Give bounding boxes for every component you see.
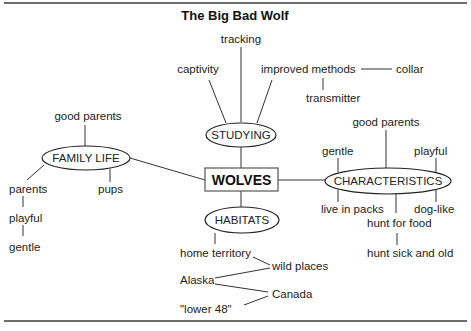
- label-improved-methods: improved methods: [261, 63, 356, 75]
- svg-text:STUDYING: STUDYING: [211, 129, 270, 141]
- label-home-territory: home territory: [180, 247, 251, 259]
- label-wild-places: wild places: [271, 260, 328, 272]
- svg-text:HABITATS: HABITATS: [215, 214, 270, 226]
- node-wolves: WOLVES: [205, 168, 278, 191]
- diagram-title: The Big Bad Wolf: [181, 8, 289, 23]
- label-char-good-parents: good parents: [352, 116, 419, 128]
- label-canada: Canada: [272, 288, 313, 300]
- label-char-playful: playful: [414, 145, 447, 157]
- label-transmitter: transmitter: [306, 92, 360, 104]
- label-parents: parents: [9, 183, 48, 195]
- label-hunt-for-food: hunt for food: [367, 217, 432, 229]
- node-studying: STUDYING: [206, 123, 276, 147]
- label-lower-48: "lower 48": [180, 303, 232, 315]
- label-hunt-sick-and-old: hunt sick and old: [367, 247, 453, 259]
- svg-text:FAMILY LIFE: FAMILY LIFE: [52, 152, 120, 164]
- label-tracking: tracking: [221, 33, 261, 45]
- label-pups: pups: [98, 183, 123, 195]
- label-family-good-parents: good parents: [54, 110, 121, 122]
- svg-text:CHARACTERISTICS: CHARACTERISTICS: [334, 175, 443, 187]
- label-collar: collar: [396, 63, 424, 75]
- label-family-gentle: gentle: [9, 241, 40, 253]
- label-alaska: Alaska: [180, 274, 215, 286]
- svg-text:WOLVES: WOLVES: [212, 172, 272, 188]
- concept-map: The Big Bad Wolf STUDYING WOLVES FAMILY …: [0, 0, 471, 331]
- label-dog-like: dog-like: [414, 203, 454, 215]
- link-alaska-wild: [215, 268, 270, 278]
- node-habitats: HABITATS: [205, 207, 279, 233]
- label-captivity: captivity: [177, 63, 219, 75]
- link-lower48-canada: [244, 296, 268, 305]
- link-family-parents: [27, 165, 44, 180]
- node-characteristics: CHARACTERISTICS: [325, 168, 451, 194]
- node-family-life: FAMILY LIFE: [42, 146, 130, 170]
- label-live-in-packs: live in packs: [321, 203, 384, 215]
- label-char-gentle: gentle: [322, 145, 353, 157]
- link-improved-methods: [257, 80, 272, 123]
- link-home-wild: [253, 257, 270, 265]
- link-family-wolves: [130, 158, 205, 180]
- link-alaska-canada: [215, 284, 268, 292]
- label-family-playful: playful: [9, 212, 42, 224]
- link-captivity: [209, 80, 226, 123]
